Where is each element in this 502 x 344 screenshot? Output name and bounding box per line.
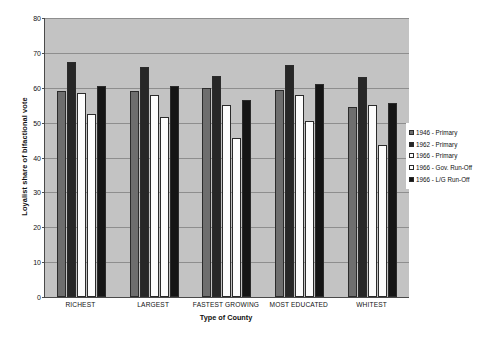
bar — [170, 86, 179, 297]
bar — [87, 114, 96, 297]
y-tick-label: 20 — [33, 224, 41, 231]
bar — [378, 145, 387, 297]
bar-group — [263, 18, 336, 297]
legend-swatch-icon — [409, 130, 414, 135]
bar — [315, 84, 324, 297]
legend-item: 1962 - Primary — [409, 139, 495, 151]
legend-swatch-icon — [409, 177, 414, 182]
legend-item: 1946 - Primary — [409, 127, 495, 139]
bar — [140, 67, 149, 297]
x-axis-title: Type of County — [44, 313, 408, 322]
bar — [222, 105, 231, 297]
bar — [202, 88, 211, 297]
bar — [358, 77, 367, 297]
bar — [388, 103, 397, 297]
bar — [305, 121, 314, 297]
bar — [57, 91, 66, 297]
bar — [232, 138, 241, 297]
bar — [295, 95, 304, 297]
legend-item: 1966 - L/G Run-Off — [409, 173, 495, 185]
y-tick-label: 70 — [33, 49, 41, 56]
y-tick-label: 60 — [33, 84, 41, 91]
bar-group — [336, 18, 409, 297]
bar — [130, 91, 139, 297]
bar-chart-figure: Loyalist share of bifactional vote 01020… — [0, 0, 502, 344]
y-tick-label: 30 — [33, 189, 41, 196]
x-axis-category-labels: RICHESTLARGESTFASTEST GROWINGMOST EDUCAT… — [44, 301, 408, 308]
y-axis-title: Loyalist share of bifactional vote — [20, 47, 29, 267]
legend-item: 1966 - Primary — [409, 150, 495, 162]
y-tick-label: 50 — [33, 119, 41, 126]
bar — [368, 105, 377, 297]
bar — [97, 86, 106, 297]
x-tick-label: RICHEST — [44, 301, 117, 308]
legend-label: 1966 - L/G Run-Off — [416, 176, 469, 183]
legend-label: 1946 - Primary — [416, 129, 457, 136]
x-tick-label: WHITEST — [335, 301, 408, 308]
bar-groups — [45, 18, 409, 297]
y-tick-label: 0 — [37, 294, 41, 301]
bar — [348, 107, 357, 297]
y-tick-label: 10 — [33, 259, 41, 266]
bar — [275, 90, 284, 298]
bar — [77, 93, 86, 297]
x-tick-label: FASTEST GROWING — [190, 301, 263, 308]
x-tick-label: MOST EDUCATED — [262, 301, 335, 308]
legend-swatch-icon — [409, 142, 414, 147]
bar-group — [118, 18, 191, 297]
bar-group — [45, 18, 118, 297]
y-tick-label: 40 — [33, 154, 41, 161]
x-tick-label: LARGEST — [117, 301, 190, 308]
legend-swatch-icon — [409, 153, 414, 158]
bar — [67, 62, 76, 297]
bar — [160, 117, 169, 297]
bar-group — [191, 18, 264, 297]
legend-label: 1966 - Gov. Run-Off — [416, 164, 472, 171]
bar — [242, 100, 251, 297]
bar — [212, 76, 221, 297]
legend-label: 1966 - Primary — [416, 152, 457, 159]
chart-legend: 1946 - Primary1962 - Primary1966 - Prima… — [406, 123, 498, 189]
bar — [150, 95, 159, 297]
y-tick-label: 80 — [33, 15, 41, 22]
plot-area: 01020304050607080 — [44, 18, 409, 298]
legend-swatch-icon — [409, 165, 414, 170]
y-tick-mark — [42, 297, 45, 298]
legend-item: 1966 - Gov. Run-Off — [409, 162, 495, 174]
legend-label: 1962 - Primary — [416, 141, 457, 148]
bar — [285, 65, 294, 297]
